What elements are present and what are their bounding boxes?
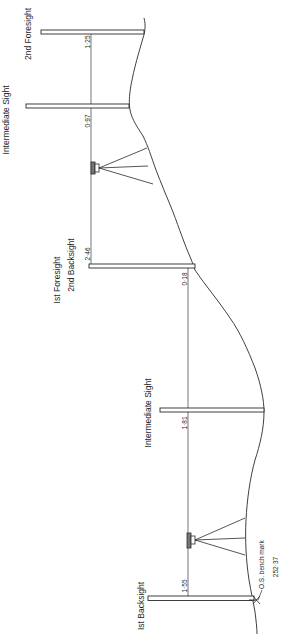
reading-second-foresight: 1·25: [84, 35, 91, 48]
bench-mark-value: 252·37: [272, 557, 279, 578]
label-second-foresight: 2nd Foresight: [23, 7, 33, 60]
staff-intermediate-sight-1: [160, 408, 264, 412]
label-intermediate-sight-2: Intermediate Sight: [1, 85, 11, 155]
label-first-backsight: Ist Backsight: [136, 581, 146, 630]
label-first-foresight: Ist Foresight: [52, 256, 62, 303]
reading-intermediate-sight-1: 1·81: [181, 416, 188, 429]
label-second-backsight: 2nd Backsight: [66, 238, 76, 292]
staff-first-foresight-second-backsight: [89, 264, 195, 268]
label-intermediate-sight-1: Intermediate Sight: [143, 378, 153, 448]
staff-first-backsight: [148, 596, 254, 601]
staff-intermediate-sight-2: [26, 104, 129, 108]
level-instrument-second-setup: [91, 148, 153, 184]
level-instrument-first-setup: [187, 518, 245, 555]
levelling-diagram: 2nd Foresight Intermediate Sight Ist For…: [0, 0, 286, 639]
reading-first-foresight: 0·18: [181, 272, 188, 285]
bench-mark-label: O.S. bench mark: [258, 539, 265, 589]
reading-intermediate-sight-2: 0·97: [84, 114, 91, 127]
reading-first-backsight: 1·55: [181, 579, 188, 592]
reading-second-backsight: 2·46: [84, 247, 91, 260]
ground-profile: [129, 18, 264, 634]
staff-second-foresight: [41, 30, 144, 34]
